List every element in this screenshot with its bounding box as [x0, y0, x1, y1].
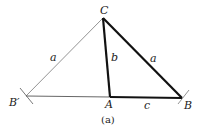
figure-caption: (a) [101, 114, 115, 125]
segment-c-bprime [26, 18, 103, 96]
segment-bprime-a [26, 96, 110, 97]
vertex-label-c: C [100, 4, 109, 17]
side-label-c: c [144, 99, 150, 112]
side-label-a-left: a [50, 51, 57, 64]
side-label-a-right: a [150, 52, 157, 65]
segment-c-a [103, 18, 110, 97]
geometry-diagram: C B′ A B a b a c (a) [0, 0, 201, 131]
vertex-label-a: A [104, 98, 113, 111]
side-label-b: b [111, 51, 118, 64]
vertex-label-bprime: B′ [8, 96, 20, 109]
vertex-label-b: B [183, 99, 192, 112]
segment-a-b [110, 97, 182, 98]
